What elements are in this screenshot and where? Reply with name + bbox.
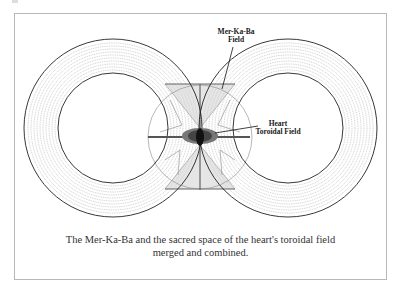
caption-line1: The Mer-Ka-Ba and the sacred space of th… [20,233,381,246]
heart-toroidal-field-label: Heart Toroidal Field [250,120,306,136]
torus-outlines [24,39,377,217]
caption-line2: merged and combined. [20,246,381,259]
figure-caption: The Mer-Ka-Ba and the sacred space of th… [20,233,381,259]
heart-label-line2: Toroidal Field [255,127,300,136]
merkaba-leader-line [222,47,233,89]
merkaba-label-line2: Field [228,35,244,44]
merkaba-field-label: Mer-Ka-Ba Field [212,28,260,44]
